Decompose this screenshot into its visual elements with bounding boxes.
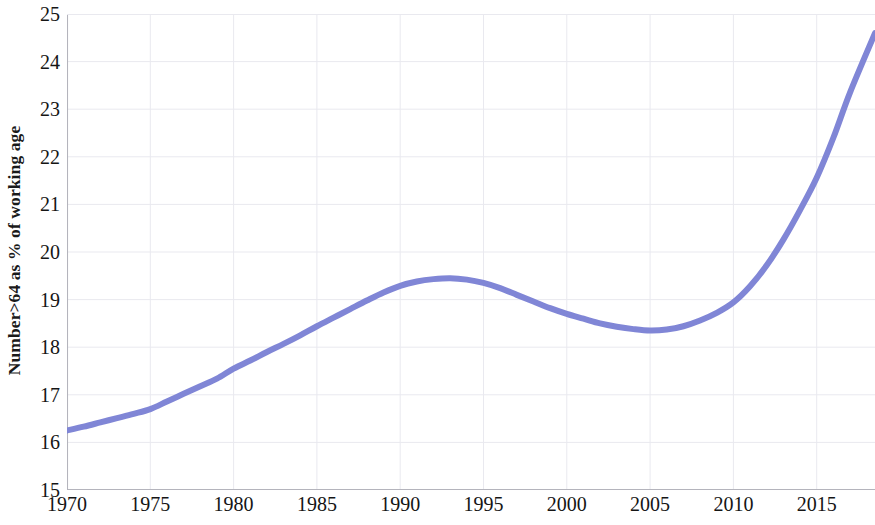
y-tick-label: 18 [40,337,60,357]
x-tick-label: 1970 [47,494,87,514]
y-tick-label: 17 [40,385,60,405]
x-tick-label: 2000 [547,494,587,514]
y-tick-label: 22 [40,147,60,167]
y-tick-label: 19 [40,290,60,310]
plot-area [67,14,875,490]
y-tick-label: 21 [40,194,60,214]
y-tick-label: 23 [40,99,60,119]
y-tick-label: 25 [40,4,60,24]
y-tick-label: 20 [40,242,60,262]
series-line [67,33,875,430]
y-axis-tick-labels: 1516171819202122232425 [28,0,64,500]
x-tick-label: 1985 [297,494,337,514]
x-tick-label: 1990 [380,494,420,514]
x-tick-label: 1995 [463,494,503,514]
x-tick-label: 1975 [130,494,170,514]
grid-lines [67,14,875,490]
x-tick-label: 1980 [214,494,254,514]
line-chart: Number>64 as % of working age 1516171819… [0,0,875,525]
y-axis-title-text: Number>64 as % of working age [5,125,26,375]
data-series [67,33,875,430]
y-tick-label: 24 [40,52,60,72]
x-tick-label: 2015 [797,494,837,514]
x-axis-tick-labels: 1970197519801985199019952000200520102015 [0,492,875,525]
x-tick-label: 2010 [713,494,753,514]
y-axis-title: Number>64 as % of working age [0,0,30,500]
y-tick-label: 16 [40,432,60,452]
x-tick-label: 2005 [630,494,670,514]
plot-svg [67,14,875,490]
